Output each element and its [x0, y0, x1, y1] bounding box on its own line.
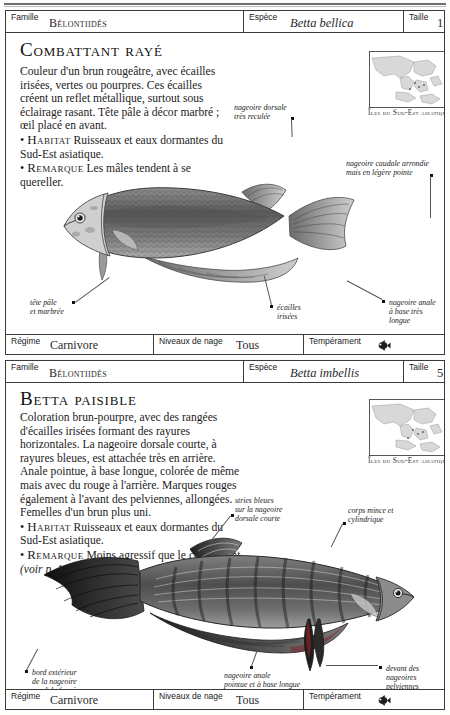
- description-intro: Couleur d'un brun rougeâtre, avec écaill…: [20, 65, 232, 133]
- footer-cell-temperament: Tempérament: [304, 335, 444, 354]
- callout-dorsal-fin: nageoire dorsale très reculée: [234, 103, 287, 121]
- fish-aggressive-icon: [376, 693, 391, 706]
- species-panel-betta-imbellis: Famille Bélontiidés Espèce Betta imbelli…: [5, 360, 445, 710]
- species-description: Couleur d'un brun rougeâtre, avec écaill…: [20, 65, 232, 189]
- callout-caudal-fin: nageoire caudale arrondie mais en légère…: [346, 159, 429, 177]
- temperament-label: Tempérament: [309, 692, 361, 701]
- header-cell-taille: Taille 5 cm: [404, 361, 444, 382]
- page-top-rule: [4, 3, 446, 5]
- leader-line-dorsal: [291, 119, 293, 137]
- leader-line-pelvic-fins: [326, 665, 378, 666]
- habitat-label: Habitat: [27, 519, 70, 534]
- footer-cell-temperament: Tempérament: [304, 690, 444, 709]
- niveaux-label: Niveaux de nage: [159, 337, 223, 346]
- callout-dot-pelvic-fins: [379, 666, 382, 669]
- regime-label: Régime: [11, 692, 40, 701]
- niveaux-label: Niveaux de nage: [159, 692, 223, 701]
- taille-value: 11 cm: [437, 17, 444, 31]
- footer-cell-regime: Régime Carnivore: [6, 335, 154, 354]
- callout-dot-body-shape: [343, 522, 346, 525]
- map-icon: [370, 400, 444, 455]
- remarque-reference: (voir p. 142).: [20, 563, 81, 576]
- species-footer-row: Régime Carnivore Niveaux de nage Tous Te…: [6, 334, 444, 354]
- species-common-name: Betta paisible: [20, 388, 137, 410]
- remarque-text: Moins agressif que le combattant: [86, 549, 240, 562]
- leader-line-caudal: [430, 176, 431, 218]
- remarque-label: Remarque: [27, 547, 83, 562]
- leader-line-anal-fin: [251, 645, 259, 666]
- header-cell-espece: Espèce Betta imbellis: [244, 361, 404, 382]
- regime-value: Carnivore: [50, 693, 98, 709]
- description-habitat: • Habitat Ruisseaux et eaux dormantes du…: [20, 520, 245, 548]
- regime-label: Régime: [11, 337, 40, 346]
- taille-value: 5 cm: [437, 367, 444, 381]
- footer-cell-niveaux-de-nage: Niveaux de nage Tous: [154, 335, 304, 354]
- callout-anal-fin: nageoire anale à base très longue: [389, 298, 444, 325]
- callout-dot-anal: [382, 300, 385, 303]
- distribution-map: [369, 51, 444, 108]
- callout-body-shape: corps mince et cylindrique: [348, 506, 393, 524]
- espece-value: Betta imbellis: [290, 367, 359, 381]
- footer-cell-niveaux-de-nage: Niveaux de nage Tous: [154, 690, 304, 709]
- description-habitat: • Habitat Ruisseaux et eaux dormantes du…: [20, 133, 232, 161]
- fish-aggressive-icon: [376, 338, 391, 351]
- espece-label: Espèce: [249, 363, 277, 372]
- niveaux-value: Tous: [236, 338, 259, 354]
- famille-value: Bélontiidés: [49, 17, 107, 31]
- description-remarque: • Remarque Les mâles tendent à se querel…: [20, 161, 232, 189]
- footer-cell-regime: Régime Carnivore: [6, 690, 154, 709]
- habitat-label: Habitat: [27, 132, 70, 147]
- callout-anal-fin: nageoire anale pointue et à base longue: [224, 671, 300, 689]
- leader-line-body-shape: [331, 524, 343, 548]
- description-remarque: • Remarque Moins agressif que le combatt…: [20, 548, 245, 576]
- header-cell-famille: Famille Bélontiidés: [6, 361, 244, 382]
- species-header-row: Famille Bélontiidés Espèce Betta imbelli…: [6, 361, 444, 383]
- header-cell-taille: Taille 11 cm: [404, 11, 444, 32]
- remarque-label: Remarque: [27, 160, 83, 175]
- species-panel-betta-bellica: Famille Bélontiidés Espèce Betta bellica…: [5, 10, 445, 355]
- callout-dorsal-stripes: stries bleues sur la nageoire dorsale co…: [235, 496, 282, 523]
- description-intro: Coloration brun-pourpre, avec des rangée…: [20, 411, 245, 520]
- leader-line-head: [75, 277, 110, 302]
- regime-value: Carnivore: [50, 338, 98, 354]
- distribution-map: [369, 399, 444, 456]
- callout-dot-dorsal-stripes: [231, 514, 234, 517]
- callout-head: tête pâle et marbrée: [30, 298, 64, 316]
- species-body: Betta paisible Coloration brun-pourpre, …: [6, 383, 444, 689]
- species-common-name: Combattant rayé: [20, 39, 163, 61]
- header-cell-espece: Espèce Betta bellica: [244, 11, 404, 32]
- callout-scales: écailles irisées: [277, 303, 301, 321]
- callout-caudal-edge: bord extérieur de la nageoire caudale fo…: [32, 668, 77, 689]
- map-icon: [370, 52, 444, 107]
- species-description: Coloration brun-pourpre, avec des rangée…: [20, 411, 245, 576]
- taille-label: Taille: [409, 363, 428, 372]
- temperament-label: Tempérament: [309, 337, 361, 346]
- espece-label: Espèce: [249, 13, 277, 22]
- famille-value: Bélontiidés: [49, 367, 107, 381]
- leader-line-anal: [347, 280, 383, 300]
- page-top-rule-secondary: [4, 6, 446, 7]
- famille-label: Famille: [11, 13, 38, 22]
- header-cell-famille: Famille Bélontiidés: [6, 11, 244, 32]
- species-footer-row: Régime Carnivore Niveaux de nage Tous Te…: [6, 689, 444, 709]
- map-caption: Îles du Sud-Est asiatique: [366, 109, 444, 117]
- niveaux-value: Tous: [236, 693, 259, 709]
- callout-pelvic-fins: devant des nageoires pelviennes marqué d…: [386, 664, 439, 689]
- famille-label: Famille: [11, 363, 38, 372]
- map-caption: Îles du Sud-Est asiatique: [366, 457, 444, 465]
- leader-line-scales: [264, 276, 272, 305]
- species-header-row: Famille Bélontiidés Espèce Betta bellica…: [6, 11, 444, 33]
- taille-label: Taille: [409, 13, 428, 22]
- espece-value: Betta bellica: [290, 17, 354, 31]
- callout-dot-scales: [270, 305, 273, 308]
- species-body: Combattant rayé Couleur d'un brun rougeâ…: [6, 33, 444, 334]
- field-guide-page: Famille Bélontiidés Espèce Betta bellica…: [0, 0, 450, 715]
